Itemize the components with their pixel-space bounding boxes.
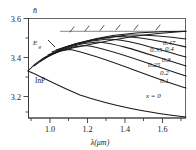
curve-label-x-03: 0.3	[162, 56, 171, 64]
y-axis-title: n̄	[33, 6, 37, 15]
chart-canvas: 3.6 3.4 3.2 1.0 1.2 1.4 1.6 n̄ λ(μm)	[0, 0, 196, 150]
y-tick-label-3-2: 3.2	[11, 93, 21, 102]
y-axis-major-ticks	[24, 19, 29, 97]
y-tick-label-3-4: 3.4	[11, 54, 21, 63]
curve-label-x-01: 0.1	[160, 77, 169, 85]
x-axis-title: λ(μm)	[90, 138, 110, 147]
bandgap-annotation-subscript: g	[39, 44, 42, 49]
bandgap-pointer-line	[48, 40, 55, 47]
x-tick-label-1-0: 1.0	[45, 125, 55, 134]
x-tick-label-1-6: 1.6	[157, 125, 167, 134]
bandgap-annotation-text: E	[32, 39, 38, 47]
curve-label-x-02: 0.2	[160, 69, 169, 77]
curve-label-x-0: x = 0	[145, 92, 161, 100]
bandgap-annotation: E g	[32, 39, 55, 49]
substrate-annotation: InP	[35, 77, 45, 85]
curve-label-x-025: 0.25	[148, 61, 161, 69]
y-tick-label-3-6: 3.6	[11, 15, 21, 24]
x-tick-label-1-4: 1.4	[120, 125, 130, 134]
x-tick-label-1-2: 1.2	[82, 125, 92, 134]
curve-label-x-035: 0.35	[150, 46, 163, 54]
chart-figure: 3.6 3.4 3.2 1.0 1.2 1.4 1.6 n̄ λ(μm)	[0, 0, 196, 150]
curve-label-x-04: 0.4	[165, 45, 174, 53]
